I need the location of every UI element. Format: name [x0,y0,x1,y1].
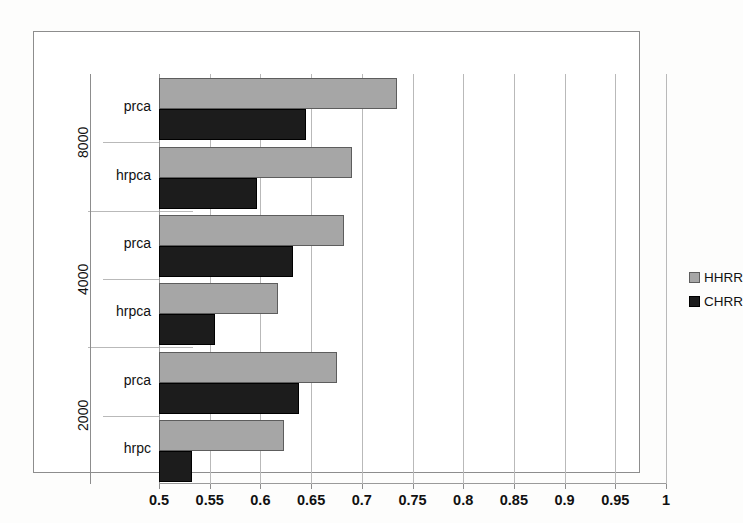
bar-chrr [159,178,257,209]
x-tick-label: 0.85 [500,492,528,508]
bar-hhrr [159,352,337,383]
group-label: 2000 [68,347,90,484]
gridline [615,74,616,484]
x-tick-mark [615,484,616,489]
x-tick-label: 0.6 [250,492,270,508]
gridline [565,74,566,484]
group-label: 4000 [68,211,90,348]
legend-swatch-icon [689,272,700,283]
category-label: prca [124,372,151,388]
gridline [666,74,667,484]
legend-item[interactable]: CHRR [689,294,743,309]
category-separator [103,279,159,280]
legend-label: CHRR [704,294,743,309]
x-tick-label: 1 [662,492,670,508]
category-label: prca [124,235,151,251]
legend-swatch-icon [689,296,700,307]
bar-hhrr [159,420,284,451]
x-tick-label: 0.7 [352,492,372,508]
gridline [413,74,414,484]
x-tick-mark [565,484,566,489]
category-label: hrpca [116,303,151,319]
category-separator [103,347,159,348]
chart-frame: 800040002000 prcahrpcaprcahrpcaprcahrpc … [33,31,640,473]
group-axis: 800040002000 [68,74,90,484]
bar-chrr [159,109,306,140]
category-label: prca [124,98,151,114]
chart-legend: HHRRCHRR [689,270,743,318]
legend-label: HHRR [704,270,743,285]
gridline [362,74,363,484]
category-separator [103,211,159,212]
gridline [463,74,464,484]
bar-chrr [159,383,299,414]
x-tick-label: 0.5 [149,492,169,508]
plot-area [159,74,666,484]
gridline [514,74,515,484]
gridline [311,74,312,484]
x-tick-mark [413,484,414,489]
bar-chrr [159,246,293,277]
x-tick-mark [210,484,211,489]
category-separator [103,416,159,417]
x-tick-label: 0.9 [555,492,575,508]
category-label: hrpc [124,440,151,456]
x-tick-label: 0.95 [601,492,629,508]
legend-item[interactable]: HHRR [689,270,743,285]
bar-chrr [159,314,215,345]
bar-hhrr [159,78,397,109]
x-tick-label: 0.65 [297,492,325,508]
x-axis-tick-labels: 0.50.550.60.650.70.750.80.850.90.951 [159,488,666,512]
bar-hhrr [159,283,278,314]
x-tick-label: 0.75 [398,492,426,508]
x-tick-mark [666,484,667,489]
x-tick-label: 0.8 [453,492,473,508]
bar-hhrr [159,215,344,246]
category-separator [103,142,159,143]
x-tick-mark [311,484,312,489]
x-tick-mark [362,484,363,489]
x-tick-mark [463,484,464,489]
bar-hhrr [159,147,352,178]
x-tick-mark [260,484,261,489]
bar-chrr [159,451,192,482]
x-tick-label: 0.55 [196,492,224,508]
x-tick-mark [159,484,160,489]
group-label: 8000 [68,74,90,211]
category-label: hrpca [116,167,151,183]
x-tick-mark [514,484,515,489]
category-axis: prcahrpcaprcahrpcaprcahrpc [89,74,159,484]
